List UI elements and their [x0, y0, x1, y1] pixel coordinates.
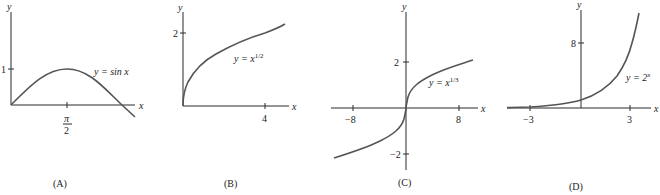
x-tick-pos-label: 3	[627, 114, 632, 125]
equation-label: y = 2x	[625, 71, 651, 83]
x-axis-label: x	[480, 103, 486, 114]
panel-a-sine: y x 1 π 2 y = sin x (A)	[1, 1, 144, 190]
sqrt-curve	[183, 24, 285, 106]
x-tick-label: 4	[262, 113, 267, 124]
y-axis-label: y	[576, 0, 582, 10]
function-graphs-figure: y x 1 π 2 y = sin x (A) y x 2 4 y = x1/2…	[0, 0, 660, 195]
panel-caption: (B)	[224, 178, 237, 190]
equation-label: y = sin x	[93, 66, 129, 77]
panel-b-sqrt: y x 2 4 y = x1/2 (B)	[173, 2, 297, 190]
y-tick-label: 8	[571, 38, 576, 49]
x-tick-neg-label: −3	[523, 114, 534, 125]
y-tick-label: 2	[173, 28, 178, 39]
panel-caption: (A)	[53, 178, 67, 190]
x-tick-denominator: 2	[64, 125, 69, 136]
y-axis-label: y	[6, 1, 12, 12]
y-axis-label: y	[177, 2, 183, 13]
x-tick-numerator: π	[64, 113, 70, 124]
x-axis-label: x	[653, 103, 659, 114]
y-tick-pos-label: 2	[394, 57, 399, 68]
exponential-curve	[507, 13, 639, 108]
cuberoot-curve	[334, 60, 473, 158]
y-tick-label: 1	[1, 64, 6, 75]
panel-caption: (D)	[569, 181, 583, 193]
panel-caption: (C)	[398, 177, 411, 189]
y-tick-neg-label: −2	[390, 149, 401, 160]
equation-label: y = x1/3	[428, 76, 459, 88]
x-tick-neg-label: −8	[345, 114, 356, 125]
y-axis-label: y	[401, 1, 407, 12]
panel-c-cuberoot: y x 2 −2 −8 8 y = x1/3 (C)	[331, 1, 486, 189]
panel-d-exponential: y x 8 −3 3 y = 2x (D)	[507, 0, 659, 193]
x-axis-label: x	[291, 101, 297, 112]
x-tick-pos-label: 8	[456, 114, 461, 125]
x-axis-label: x	[138, 100, 144, 111]
equation-label: y = x1/2	[233, 52, 264, 64]
